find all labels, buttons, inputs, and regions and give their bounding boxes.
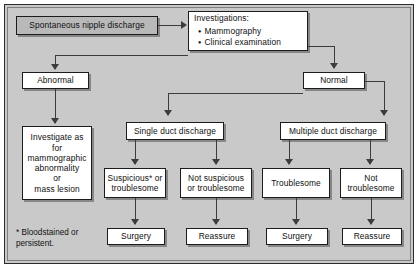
arrow-to-not-troublesome xyxy=(366,159,374,165)
node-troublesome: Troublesome xyxy=(262,168,330,198)
footnote: * Bloodstained or persistent. xyxy=(16,228,128,249)
node-multiple-duct-label: Multiple duct discharge xyxy=(283,126,383,136)
arrow-to-reassure-1 xyxy=(212,219,220,225)
arrow-to-surgery-2 xyxy=(292,219,300,225)
node-not-suspicious-label: Not suspicious or troublesome xyxy=(183,173,249,194)
node-single-duct-discharge: Single duct discharge xyxy=(126,122,224,140)
node-abnormal: Abnormal xyxy=(22,72,89,89)
node-surgery-2-label: Surgery xyxy=(269,231,325,241)
node-start: Spontaneous nipple discharge xyxy=(16,16,158,35)
arrow-to-troublesome xyxy=(285,159,293,165)
node-reassure-2-label: Reassure xyxy=(345,231,399,241)
arrow-to-abnormal xyxy=(51,64,59,70)
node-not-suspicious: Not suspicious or troublesome xyxy=(180,168,252,198)
node-troublesome-label: Troublesome xyxy=(265,178,327,188)
investigations-item-mammography: Mammography xyxy=(198,26,305,37)
node-reassure-1: Reassure xyxy=(186,228,248,245)
node-suspicious-label: Suspicious* or troublesome xyxy=(107,173,163,194)
node-investigate-as-label: Investigate as for mammographic abnormal… xyxy=(25,132,89,194)
node-not-troublesome: Not troublesome xyxy=(340,168,402,198)
arrow-to-normal xyxy=(330,63,338,69)
arrow-to-single-duct xyxy=(164,110,172,116)
connector-normal-left-bus xyxy=(168,93,303,94)
node-not-troublesome-label: Not troublesome xyxy=(343,173,399,194)
node-suspicious: Suspicious* or troublesome xyxy=(104,168,166,198)
node-reassure-2: Reassure xyxy=(342,228,402,245)
node-single-duct-label: Single duct discharge xyxy=(129,126,221,136)
flowchart-canvas: Spontaneous nipple discharge Investigati… xyxy=(0,0,418,268)
node-investigate-as: Investigate as for mammographic abnormal… xyxy=(22,126,92,200)
node-abnormal-label: Abnormal xyxy=(25,75,86,85)
arrow-to-not-suspicious xyxy=(212,159,220,165)
connector-investigations-right xyxy=(308,46,335,47)
investigations-header: Investigations: xyxy=(194,13,305,24)
arrow-to-investigate xyxy=(51,118,59,124)
node-normal: Normal xyxy=(303,72,365,89)
arrow-to-multiple-duct xyxy=(380,110,388,116)
node-reassure-1-label: Reassure xyxy=(189,231,245,241)
arrow-start-to-investigations xyxy=(181,21,187,29)
connector-start-to-investigations xyxy=(158,25,182,26)
connector-investigations-left-bus xyxy=(55,55,188,56)
arrow-to-reassure-2 xyxy=(367,219,375,225)
node-multiple-duct-discharge: Multiple duct discharge xyxy=(280,122,386,140)
node-start-label: Spontaneous nipple discharge xyxy=(19,20,155,30)
investigations-list: Investigations: Mammography Clinical exa… xyxy=(194,13,305,48)
arrow-to-suspicious xyxy=(131,159,139,165)
connector-normal-right xyxy=(365,81,385,82)
investigations-item-clinical-examination: Clinical examination xyxy=(198,37,305,48)
node-normal-label: Normal xyxy=(306,75,362,85)
node-surgery-2: Surgery xyxy=(266,228,328,245)
arrow-to-surgery-1 xyxy=(131,219,139,225)
node-investigations: Investigations: Mammography Clinical exa… xyxy=(188,11,308,51)
